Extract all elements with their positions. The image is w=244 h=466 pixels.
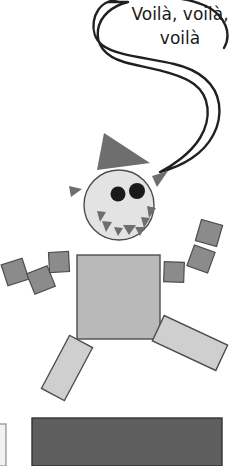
arm-block-right-mid [187,245,215,273]
eye-right [129,183,145,199]
arm-block-right-outer [195,219,222,246]
eye-left [111,187,126,202]
spike-right-icon [152,171,168,187]
arm-right [164,219,223,282]
illustration-canvas: Voilà, voilà, voilà [0,0,244,466]
speech-bubble-line-2: voilà [160,28,200,48]
body-square [77,255,160,339]
floor-bar [32,418,222,466]
leg-right [152,316,227,371]
hat-triangle [97,133,150,170]
arm-block-left-outer [1,258,29,286]
arm-left [1,251,69,294]
spike-left-icon [69,186,82,197]
speech-bubble-line-1: Voilà, voilà, [131,4,228,24]
arm-block-right-inner [164,262,185,283]
leg-left [41,335,92,400]
left-edge-panel [0,424,6,466]
arm-block-left-inner [48,251,69,272]
